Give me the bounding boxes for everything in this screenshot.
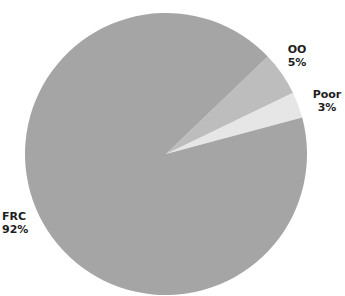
- slice-label-frc-name: FRC: [2, 210, 28, 223]
- pie-chart: OO 5% Poor 3% FRC 92%: [0, 0, 345, 296]
- slice-label-oo-value: 5%: [287, 56, 307, 69]
- slice-label-oo-name: OO: [287, 43, 307, 56]
- slice-label-frc: FRC 92%: [2, 210, 28, 236]
- slice-label-oo: OO 5%: [287, 43, 307, 69]
- slice-label-frc-value: 92%: [2, 223, 28, 236]
- slice-label-poor-value: 3%: [312, 101, 342, 114]
- slice-label-poor-name: Poor: [312, 88, 342, 101]
- pie-slice-frc: [25, 13, 307, 295]
- slice-label-poor: Poor 3%: [312, 88, 342, 114]
